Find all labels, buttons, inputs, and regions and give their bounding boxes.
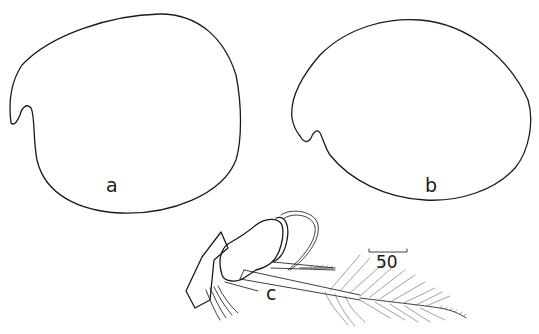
panel-label-b: b <box>425 174 437 196</box>
panel-label-c: c <box>266 282 276 304</box>
rod-segment <box>240 270 360 300</box>
panel-c: c <box>186 211 466 326</box>
figure-canvas: a b <box>0 0 539 334</box>
upper-rod <box>271 262 335 270</box>
scale-bar-label: 50 <box>376 252 398 272</box>
main-plumose-seta <box>360 298 466 318</box>
shell-outline-b <box>292 20 531 201</box>
shell-outline-a <box>10 14 240 213</box>
basal-segment <box>186 232 228 308</box>
second-segment <box>273 217 288 262</box>
scale-bar: 50 <box>369 249 407 272</box>
basal-setae <box>206 282 258 320</box>
panel-label-a: a <box>106 174 118 196</box>
panel-b: b <box>292 20 531 201</box>
panel-a: a <box>10 14 240 213</box>
